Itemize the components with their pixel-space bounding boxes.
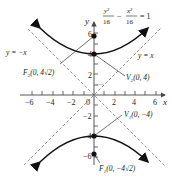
v1-label: V₁(0, −4): [124, 110, 153, 119]
x-tick-label: 2: [112, 98, 116, 107]
y-tick-label: −2: [83, 112, 92, 121]
y-tick-label: −4: [83, 132, 92, 141]
equation: y² 16 − x² 16 = 1: [103, 7, 151, 26]
point-f2: [91, 33, 96, 38]
svg-text:x²: x²: [126, 7, 133, 15]
v2-label: V₂(0, 4): [126, 73, 150, 82]
x-tick-label: 6: [153, 98, 157, 107]
hyperbola-diagram: −6 −4 −2 0 2 4 6 6 4 2 −2 −4 −6 x y y² 1…: [0, 0, 172, 193]
svg-text:y²: y²: [103, 7, 110, 15]
asymptote-pos-line: [24, 27, 162, 165]
y-tick-label: 2: [88, 71, 92, 80]
asymptote-pos-label: y = x: [137, 51, 154, 60]
y-axis-label: y: [84, 16, 89, 26]
v1-leader: [94, 115, 122, 136]
svg-text:= 1: = 1: [140, 12, 151, 21]
v2-leader: [94, 54, 125, 76]
svg-text:16: 16: [126, 18, 134, 26]
x-tick-label: 0: [86, 98, 90, 107]
x-axis-label: x: [162, 97, 167, 107]
point-f1: [91, 151, 96, 156]
svg-text:16: 16: [103, 18, 111, 26]
asymptote-neg-label: y = −x: [5, 48, 27, 57]
y-tick-label: 4: [88, 50, 92, 59]
y-tick-label: 6: [88, 30, 92, 39]
point-v2: [91, 51, 96, 56]
x-tick-label: 4: [132, 98, 136, 107]
svg-text:−: −: [117, 12, 122, 21]
x-tick-label: −6: [25, 98, 34, 107]
point-v1: [91, 133, 96, 138]
y-tick-label: −6: [83, 152, 92, 161]
x-tick-label: −4: [46, 98, 55, 107]
diagram-canvas: −6 −4 −2 0 2 4 6 6 4 2 −2 −4 −6 x y y² 1…: [0, 0, 172, 193]
f2-label: F₂(0, 4√2): [22, 68, 55, 77]
f1-label: F₁(0, −4√2): [98, 164, 136, 173]
x-tick-label: −2: [67, 98, 76, 107]
